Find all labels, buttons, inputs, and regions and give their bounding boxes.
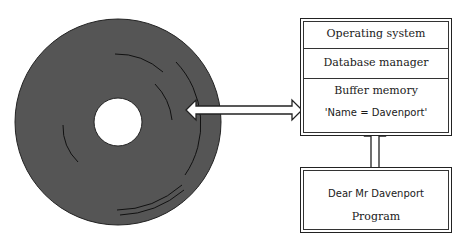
database-manager-label: Database manager [301, 56, 451, 69]
divider [304, 78, 448, 79]
buffer-content: 'Name = Davenport' [301, 107, 451, 118]
program-output-text: Dear Mr Davenport [301, 188, 451, 199]
memory-box: Operating system Database manager Buffer… [300, 18, 452, 136]
program-box: Dear Mr Davenport Program [300, 167, 452, 233]
buffer-memory-label: Buffer memory [301, 84, 451, 97]
divider [304, 48, 448, 49]
disk [15, 19, 221, 225]
program-label: Program [301, 210, 451, 223]
operating-system-label: Operating system [301, 27, 451, 40]
